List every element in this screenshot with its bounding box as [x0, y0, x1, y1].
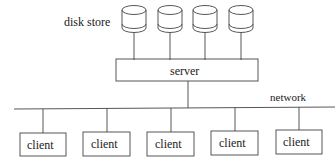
client-label: client — [219, 137, 246, 149]
network-label: network — [270, 92, 306, 103]
disk-icon — [193, 6, 217, 61]
client-label: client — [283, 136, 310, 148]
client-label: client — [155, 138, 182, 150]
disk-store-label: disk store — [64, 16, 110, 28]
disk-icon — [229, 6, 253, 61]
client-label: client — [27, 139, 54, 151]
server-label: server — [170, 65, 199, 77]
network-bus — [14, 107, 335, 109]
disk-icon — [158, 6, 182, 61]
disk-icon — [122, 6, 146, 61]
client-label: client — [91, 138, 118, 150]
